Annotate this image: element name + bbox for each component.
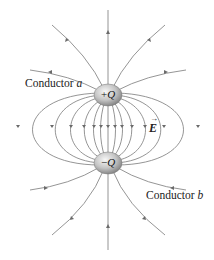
field-line [101, 101, 106, 157]
field-line [112, 25, 165, 89]
field-lines [30, 10, 186, 250]
field-diagram [0, 0, 214, 260]
field-line [114, 97, 146, 161]
conductor-b-text: Conductor [146, 189, 195, 201]
field-line [30, 167, 100, 190]
field-line [116, 70, 186, 91]
electric-field-label: → E [149, 121, 157, 136]
field-line [71, 97, 103, 161]
conductor-a-letter: a [76, 77, 82, 89]
conductor-b-label: Conductor b [146, 189, 203, 201]
negative-charge-label: −Q [93, 156, 123, 168]
field-line [52, 169, 104, 235]
conductor-a-label: Conductor a [25, 77, 82, 89]
positive-q-symbol: Q [107, 88, 115, 100]
vector-arrow-icon: → [150, 114, 158, 123]
electric-field-symbol: E [149, 121, 157, 135]
conductor-b-letter: b [197, 189, 203, 201]
field-line [111, 101, 116, 157]
conductor-a-text: Conductor [25, 77, 74, 89]
field-line [116, 167, 186, 190]
field-line [33, 93, 101, 165]
positive-charge-label: +Q [93, 88, 123, 100]
negative-q-symbol: Q [107, 156, 115, 168]
field-line [112, 169, 165, 235]
